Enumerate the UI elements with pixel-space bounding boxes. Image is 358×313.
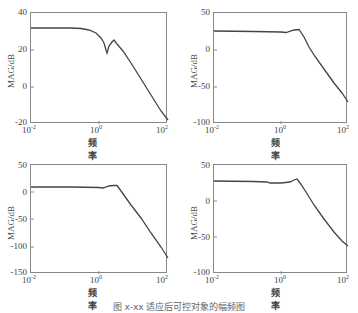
x-tick: 10-2 xyxy=(205,274,219,285)
y-tick: 50 xyxy=(186,7,210,17)
x-tick: 102 xyxy=(337,274,349,285)
y-tick: 0 xyxy=(186,196,210,206)
y-tick: -50 xyxy=(3,214,27,224)
plot-area xyxy=(30,164,167,273)
y-tick: 50 xyxy=(3,160,27,170)
x-tick: 100 xyxy=(90,124,102,135)
y-tick: 40 xyxy=(3,7,27,17)
x-tick: 102 xyxy=(337,124,349,135)
y-tick: 0 xyxy=(3,81,27,91)
x-tick: 100 xyxy=(274,274,286,285)
y-tick: 20 xyxy=(3,44,27,54)
x-tick: 102 xyxy=(156,124,168,135)
magnitude-curve xyxy=(214,165,348,274)
x-tick: 10-2 xyxy=(22,274,36,285)
x-tick: 100 xyxy=(90,274,102,285)
plot-area xyxy=(30,12,167,123)
magnitude-curve xyxy=(31,165,168,274)
magnitude-curve xyxy=(214,13,348,124)
y-tick: 50 xyxy=(186,160,210,170)
y-tick: -100 xyxy=(3,241,27,251)
x-axis-label: 频率 xyxy=(271,136,280,162)
x-tick: 10-2 xyxy=(205,124,219,135)
y-tick: -50 xyxy=(186,81,210,91)
x-axis-label: 频率 xyxy=(88,136,97,162)
x-tick: 102 xyxy=(156,274,168,285)
plot-area xyxy=(213,164,347,273)
y-tick: 0 xyxy=(3,187,27,197)
x-tick: 10-2 xyxy=(22,124,36,135)
plot-area xyxy=(213,12,347,123)
magnitude-curve xyxy=(31,13,168,124)
figure-caption: 图 x-xx 适应后可控对象的幅频图 xyxy=(0,300,358,313)
y-tick: -50 xyxy=(186,232,210,242)
x-tick: 100 xyxy=(274,124,286,135)
y-tick: 0 xyxy=(186,44,210,54)
